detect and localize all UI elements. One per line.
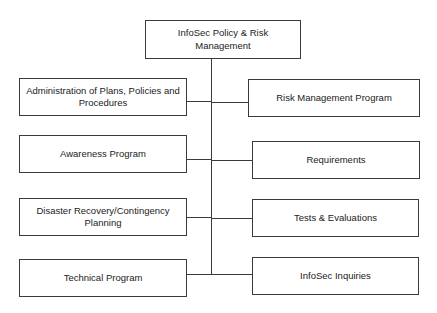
connector-left-2	[187, 159, 211, 160]
trunk-line	[211, 58, 212, 275]
node-label: Technical Program	[64, 272, 143, 284]
node-infosec-inquiries: InfoSec Inquiries	[252, 257, 419, 295]
node-label: Requirements	[306, 154, 365, 166]
connector-right-4	[211, 274, 252, 275]
connector-right-1	[211, 102, 248, 103]
node-disaster-recovery: Disaster Recovery/Contingency Planning	[19, 198, 187, 236]
connector-right-2	[211, 160, 252, 161]
node-label: Awareness Program	[60, 148, 146, 160]
connector-left-4	[187, 274, 211, 275]
connector-right-3	[211, 218, 252, 219]
node-label: Risk Management Program	[276, 92, 392, 104]
node-technical-program: Technical Program	[19, 259, 187, 297]
connector-left-3	[187, 217, 211, 218]
root-node-label: InfoSec Policy & Risk Management	[152, 27, 294, 52]
node-tests-evaluations: Tests & Evaluations	[252, 199, 419, 237]
node-administration: Administration of Plans, Policies and Pr…	[19, 78, 187, 116]
node-risk-management-program: Risk Management Program	[248, 79, 420, 117]
node-awareness-program: Awareness Program	[19, 135, 187, 173]
node-label: Disaster Recovery/Contingency Planning	[26, 205, 180, 230]
connector-left-1	[187, 101, 211, 102]
node-label: Tests & Evaluations	[294, 212, 377, 224]
root-node: InfoSec Policy & Risk Management	[145, 20, 301, 59]
node-requirements: Requirements	[252, 141, 420, 179]
node-label: Administration of Plans, Policies and Pr…	[26, 85, 180, 110]
node-label: InfoSec Inquiries	[300, 270, 371, 282]
